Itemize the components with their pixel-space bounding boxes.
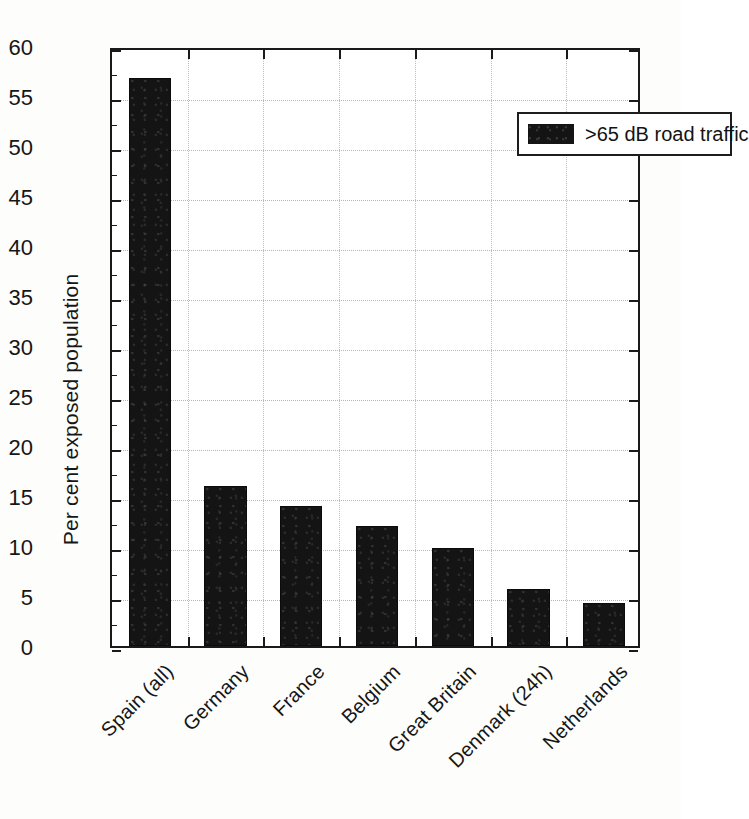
y-tick <box>112 600 121 602</box>
y-tick-minor <box>112 275 117 276</box>
gridline-horizontal <box>112 500 638 501</box>
gridline-horizontal <box>112 250 638 251</box>
y-tick-label: 55 <box>0 85 33 111</box>
bar <box>280 506 322 646</box>
y-tick-right <box>629 100 638 102</box>
x-tick <box>263 637 265 646</box>
y-tick-right <box>629 400 638 402</box>
y-tick-label: 50 <box>0 135 33 161</box>
y-tick-label: 5 <box>0 585 33 611</box>
legend-label-road-traffic: >65 dB road traffic <box>585 123 749 146</box>
bar <box>356 526 398 646</box>
y-tick-label: 35 <box>0 285 33 311</box>
y-tick-label: 30 <box>0 335 33 361</box>
y-tick <box>112 50 121 52</box>
gridline-vertical <box>339 50 340 646</box>
gridline-vertical <box>263 50 264 646</box>
bar <box>507 589 549 646</box>
y-tick-minor <box>112 375 117 376</box>
y-tick-right <box>629 600 638 602</box>
y-tick-minor <box>112 425 117 426</box>
gridline-horizontal <box>112 450 638 451</box>
chart-legend: >65 dB road traffic <box>517 112 732 156</box>
y-tick-minor <box>112 175 117 176</box>
y-tick-minor <box>112 625 117 626</box>
y-tick-label: 25 <box>0 385 33 411</box>
y-tick-right <box>629 250 638 252</box>
y-tick-right <box>629 200 638 202</box>
y-tick-right <box>629 350 638 352</box>
y-tick <box>112 450 121 452</box>
bar <box>204 486 246 646</box>
x-tick-top <box>491 50 493 59</box>
y-tick-minor <box>112 475 117 476</box>
y-tick-right <box>629 450 638 452</box>
gridline-horizontal <box>112 100 638 101</box>
x-tick <box>339 637 341 646</box>
y-tick <box>112 250 121 252</box>
y-tick-label: 60 <box>0 35 33 61</box>
y-tick <box>112 100 121 102</box>
y-tick <box>112 200 121 202</box>
y-tick <box>112 150 121 152</box>
bar <box>432 548 474 646</box>
y-tick <box>112 300 121 302</box>
y-tick-label: 10 <box>0 535 33 561</box>
x-tick <box>415 637 417 646</box>
y-tick-minor <box>112 225 117 226</box>
y-tick <box>112 400 121 402</box>
y-tick-label: 45 <box>0 185 33 211</box>
y-tick <box>112 650 121 652</box>
y-tick-minor <box>112 125 117 126</box>
y-tick-label: 20 <box>0 435 33 461</box>
y-tick <box>112 500 121 502</box>
x-tick-top <box>415 50 417 59</box>
y-tick-minor <box>112 525 117 526</box>
bar <box>129 78 171 646</box>
y-tick-minor <box>112 325 117 326</box>
y-tick-right <box>629 300 638 302</box>
y-axis-title: Per cent exposed population <box>52 0 108 819</box>
x-tick-top <box>566 50 568 59</box>
gridline-horizontal <box>112 400 638 401</box>
bar <box>583 603 625 646</box>
y-tick-minor <box>112 75 117 76</box>
y-tick <box>112 350 121 352</box>
legend-swatch-road-traffic <box>528 124 574 144</box>
y-tick-minor <box>112 575 117 576</box>
gridline-vertical <box>415 50 416 646</box>
x-tick-top <box>188 50 190 59</box>
y-tick-right <box>629 550 638 552</box>
gridline-vertical <box>188 50 189 646</box>
y-tick-right <box>629 650 638 652</box>
gridline-horizontal <box>112 350 638 351</box>
x-tick-top <box>339 50 341 59</box>
x-tick <box>491 637 493 646</box>
plot-area: >65 dB road traffic <box>110 48 640 648</box>
x-tick-top <box>263 50 265 59</box>
x-tick <box>188 637 190 646</box>
y-tick-label: 0 <box>0 635 33 661</box>
x-tick <box>566 637 568 646</box>
y-tick-right <box>629 50 638 52</box>
gridline-horizontal <box>112 300 638 301</box>
y-tick-label: 40 <box>0 235 33 261</box>
gridline-horizontal <box>112 200 638 201</box>
y-tick-label: 15 <box>0 485 33 511</box>
gridline-vertical <box>491 50 492 646</box>
y-tick <box>112 550 121 552</box>
y-axis-title-text: Per cent exposed population <box>59 274 83 546</box>
y-tick-right <box>629 500 638 502</box>
